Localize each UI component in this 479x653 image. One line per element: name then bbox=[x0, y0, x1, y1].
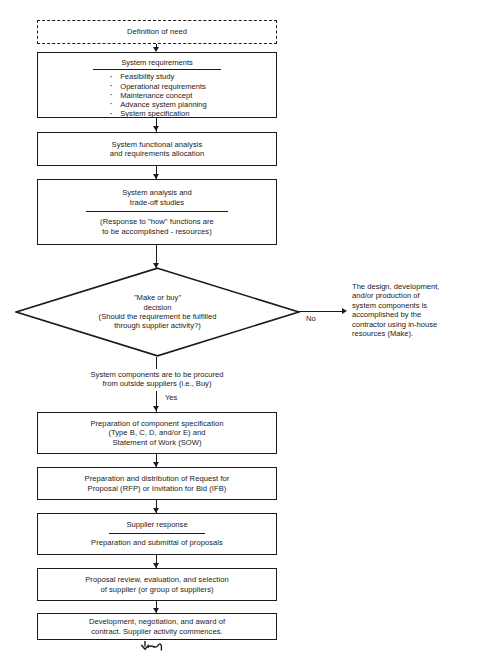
list-item: System specification bbox=[107, 109, 207, 118]
continuation-squiggle-icon bbox=[140, 640, 174, 653]
node-component-specification-label: Preparation of component specification (… bbox=[90, 419, 223, 447]
node-definition-of-need-label: Definition of need bbox=[127, 27, 187, 36]
node-system-analysis-body: (Response to "how" functions are to be a… bbox=[100, 217, 214, 236]
node-make-or-buy-decision: "Make or buy" decision (Should the requi… bbox=[15, 267, 300, 357]
list-item: Operational requirements bbox=[107, 82, 207, 91]
arrowhead-supplier-response-to-review bbox=[153, 563, 159, 568]
node-contract-award-label: Development, negotiation, and award of c… bbox=[89, 617, 225, 636]
arrowhead-functional-to-analysis bbox=[153, 174, 159, 179]
node-system-requirements-title: System requirements bbox=[121, 58, 193, 68]
list-item: Maintenance concept bbox=[107, 91, 207, 100]
connector-decision-to-make-outcome bbox=[299, 311, 343, 312]
node-system-analysis-title: System analysis and trade-off studies bbox=[122, 188, 192, 208]
list-item: Advance system planning bbox=[107, 100, 207, 109]
edge-label-yes: Yes bbox=[165, 393, 177, 402]
node-rfp-distribution: Preparation and distribution of Request … bbox=[37, 467, 277, 500]
node-supplier-response-title: Supplier response bbox=[126, 520, 187, 530]
node-make-outcome-text: The design, development, and/or producti… bbox=[352, 282, 478, 338]
node-supplier-response-body: Preparation and submittal of proposals bbox=[91, 538, 223, 547]
node-component-specification: Preparation of component specification (… bbox=[37, 412, 277, 454]
list-item: Feasibility study bbox=[107, 72, 207, 81]
node-contract-award: Development, negotiation, and award of c… bbox=[37, 613, 277, 640]
node-functional-analysis-label: System functional analysis and requireme… bbox=[110, 140, 205, 159]
node-buy-note-text: System components are to be procured fro… bbox=[46, 370, 268, 389]
node-system-analysis: System analysis and trade-off studies (R… bbox=[37, 179, 277, 245]
node-system-requirements: System requirements Feasibility study Op… bbox=[37, 52, 277, 118]
edge-label-no: No bbox=[306, 314, 316, 323]
node-make-or-buy-decision-label: "Make or buy" decision (Should the requi… bbox=[15, 267, 300, 357]
arrowhead-buy-note-to-component-spec bbox=[153, 406, 159, 411]
node-proposal-review: Proposal review, evaluation, and selecti… bbox=[37, 568, 277, 601]
arrowhead-decision-to-make-outcome bbox=[342, 308, 347, 314]
divider-supplier-response bbox=[109, 533, 204, 534]
node-proposal-review-label: Proposal review, evaluation, and selecti… bbox=[85, 575, 229, 594]
node-functional-analysis: System functional analysis and requireme… bbox=[37, 132, 277, 166]
system-requirements-bullet-list: Feasibility study Operational requiremen… bbox=[107, 72, 207, 118]
connector-decision-to-buy-note bbox=[156, 357, 157, 369]
divider-system-analysis bbox=[86, 211, 229, 212]
arrowhead-requirements-to-functional bbox=[153, 126, 159, 131]
node-rfp-distribution-label: Preparation and distribution of Request … bbox=[85, 474, 230, 493]
node-supplier-response: Supplier response Preparation and submit… bbox=[37, 513, 277, 555]
arrowhead-rfp-to-supplier-response bbox=[153, 508, 159, 513]
flowchart-canvas: Definition of need System requirements F… bbox=[0, 0, 479, 653]
arrowhead-component-spec-to-rfp bbox=[153, 462, 159, 467]
node-definition-of-need: Definition of need bbox=[37, 20, 277, 44]
